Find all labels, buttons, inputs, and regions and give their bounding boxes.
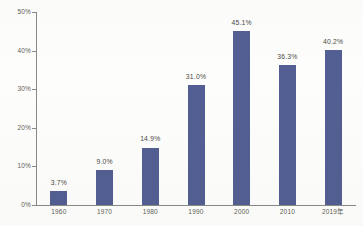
bar-value-label: 9.0% bbox=[96, 159, 112, 166]
bar-value-label: 45.1% bbox=[232, 20, 252, 27]
x-axis-line bbox=[36, 205, 356, 206]
bar-value-label: 40.2% bbox=[323, 39, 343, 46]
x-axis-label: 2019年 bbox=[322, 209, 344, 216]
bar-chart: 0%10%20%30%40%50% 3.7%9.0%14.9%31.0%45.1… bbox=[0, 0, 363, 226]
x-axis-label: 2000 bbox=[234, 209, 249, 216]
x-axis-label: 1960 bbox=[51, 209, 66, 216]
y-axis-tick-label: 30% bbox=[3, 86, 31, 93]
bar bbox=[142, 148, 159, 206]
x-axis-label: 1970 bbox=[97, 209, 112, 216]
y-axis-tick-label: 0% bbox=[3, 202, 31, 209]
y-axis-tick-label: 40% bbox=[3, 47, 31, 54]
bar bbox=[188, 85, 205, 205]
y-axis-tick bbox=[32, 51, 37, 52]
bar bbox=[96, 170, 113, 205]
y-axis-tick bbox=[32, 12, 37, 13]
y-axis-tick bbox=[32, 166, 37, 167]
bar-value-label: 14.9% bbox=[140, 136, 160, 143]
bar bbox=[279, 65, 296, 205]
bar bbox=[233, 31, 250, 205]
y-axis-tick bbox=[32, 205, 37, 206]
x-axis-label: 1990 bbox=[188, 209, 203, 216]
bar bbox=[50, 191, 67, 205]
y-axis-tick bbox=[32, 128, 37, 129]
y-axis-tick bbox=[32, 89, 37, 90]
y-axis-line bbox=[36, 12, 37, 206]
x-axis-label: 2010 bbox=[280, 209, 295, 216]
bar-value-label: 36.3% bbox=[277, 54, 297, 61]
y-axis-tick-label: 10% bbox=[3, 163, 31, 170]
bar-value-label: 31.0% bbox=[186, 74, 206, 81]
bar bbox=[325, 50, 342, 205]
x-axis-label: 1980 bbox=[143, 209, 158, 216]
y-axis-tick-label: 20% bbox=[3, 125, 31, 132]
bar-value-label: 3.7% bbox=[51, 180, 67, 187]
y-axis-tick-label: 50% bbox=[3, 9, 31, 16]
